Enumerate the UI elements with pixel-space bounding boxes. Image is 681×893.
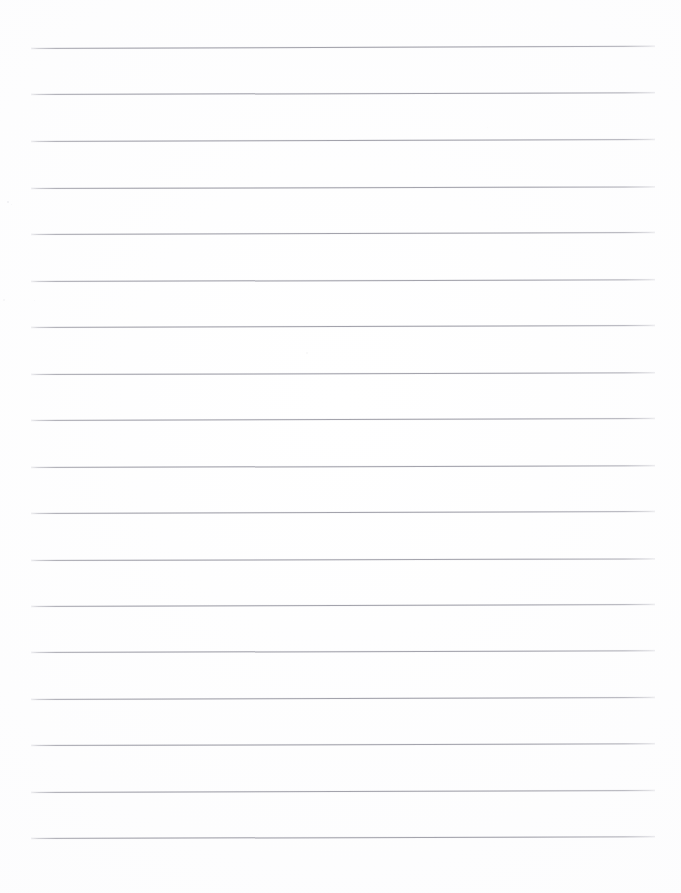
ruled-line <box>31 604 655 607</box>
ruled-line <box>31 232 655 235</box>
ruled-line <box>31 279 655 282</box>
ruled-line <box>31 697 655 700</box>
ruled-line <box>31 743 655 746</box>
ruled-lines-layer <box>0 0 681 893</box>
ruled-line <box>31 418 655 421</box>
ruled-line <box>31 186 655 189</box>
ruled-line <box>31 465 655 468</box>
ruled-line <box>31 92 655 95</box>
scanned-page <box>0 0 681 893</box>
ruled-line <box>31 790 655 793</box>
ruled-line <box>31 650 655 653</box>
ruled-line <box>31 836 655 839</box>
ruled-line <box>31 558 655 561</box>
ruled-line <box>31 325 655 328</box>
ruled-line <box>31 46 655 49</box>
ruled-line <box>31 511 655 514</box>
ruled-line <box>31 139 655 142</box>
ruled-line <box>31 372 655 375</box>
